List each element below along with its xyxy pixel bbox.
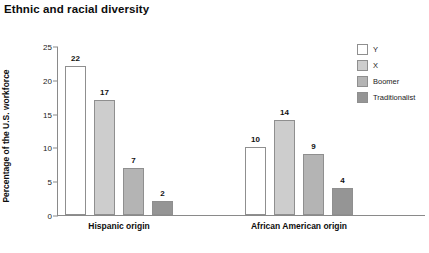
legend-label: Boomer: [373, 77, 399, 86]
legend-swatch: [357, 92, 368, 103]
chart-legend: YXBoomerTraditionalist: [357, 42, 429, 106]
legend-item: X: [357, 58, 429, 73]
y-tick-label: 10: [30, 144, 52, 153]
legend-swatch: [357, 60, 368, 71]
bar: 14: [274, 120, 295, 215]
legend-label: X: [373, 61, 378, 70]
bar: 22: [65, 66, 86, 215]
bar-value-label: 22: [71, 54, 80, 63]
legend-label: Traditionalist: [373, 93, 415, 102]
y-tick-label: 20: [30, 76, 52, 85]
bar: 9: [303, 154, 324, 215]
chart-figure: Ethnic and racial diversity Percentage o…: [0, 0, 429, 253]
bar: 10: [245, 147, 266, 215]
x-axis-group-label: African American origin: [251, 221, 347, 231]
legend-label: Y: [373, 45, 378, 54]
legend-swatch: [357, 76, 368, 87]
chart-title: Ethnic and racial diversity: [4, 3, 149, 15]
bar-value-label: 10: [251, 135, 260, 144]
bar-value-label: 2: [160, 189, 164, 198]
bar-value-label: 4: [340, 176, 344, 185]
bar-value-label: 9: [311, 142, 315, 151]
bar-value-label: 14: [280, 108, 289, 117]
legend-item: Boomer: [357, 74, 429, 89]
bar-value-label: 7: [131, 156, 135, 165]
y-tick-mark: [53, 216, 58, 217]
legend-item: Traditionalist: [357, 90, 429, 105]
y-tick-label: 25: [30, 43, 52, 52]
legend-item: Y: [357, 42, 429, 57]
bar-value-label: 17: [100, 88, 109, 97]
y-tick-label: 0: [30, 212, 52, 221]
bar: 7: [123, 168, 144, 215]
y-tick-label: 15: [30, 110, 52, 119]
legend-swatch: [357, 44, 368, 55]
x-axis-group-label: Hispanic origin: [88, 221, 149, 231]
bar: 4: [332, 188, 353, 215]
y-tick-label: 5: [30, 178, 52, 187]
bar: 17: [94, 100, 115, 215]
y-axis-label: Percentage of the U.S. workforce: [1, 61, 11, 211]
bar: 2: [152, 201, 173, 215]
